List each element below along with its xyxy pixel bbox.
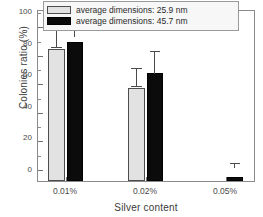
bar-chart-figure: Colonies ratio (%) 0 20 40 60 80 100 — [0, 0, 263, 217]
y-tick-label-100: 100 — [8, 7, 32, 16]
x-tick-label-2: 0.02% — [115, 186, 175, 196]
y-tick-major-20 — [38, 141, 43, 142]
legend-item-25.9nm: average dimensions: 25.9 nm — [47, 5, 235, 15]
chart-legend: average dimensions: 25.9 nm average dime… — [43, 1, 239, 31]
bar-0.02-45.7nm — [147, 73, 163, 181]
y-tick-major-40 — [38, 113, 43, 114]
error-bar-cap-upper-0.05-45.7nm — [230, 163, 240, 164]
y-tick-label-80: 80 — [8, 39, 32, 48]
x-tick-label-1: 0.01% — [35, 186, 95, 196]
y-tick-label-20: 20 — [8, 133, 32, 142]
bar-0.02-25.9nm — [128, 88, 145, 181]
legend-label-25.9nm: average dimensions: 25.9 nm — [76, 6, 188, 15]
bar-0.01-45.7nm — [67, 42, 83, 181]
y-tick-minor-110 — [38, 13, 41, 14]
x-axis-title: Silver content — [37, 202, 255, 213]
error-bar-stem-0.02-45.7nm — [154, 51, 155, 74]
y-tick-minor-50 — [38, 99, 41, 100]
y-tick-major-60 — [38, 84, 43, 85]
plot-inner — [38, 11, 254, 181]
error-bar-cap-upper-0.02-45.7nm — [150, 51, 160, 52]
legend-label-45.7nm: average dimensions: 45.7 nm — [76, 17, 188, 26]
y-tick-label-60: 60 — [8, 70, 32, 79]
legend-swatch-black-icon — [47, 17, 71, 25]
y-tick-major-0 — [38, 170, 43, 171]
bar-0.01-25.9nm — [48, 49, 65, 181]
x-tick-label-3: 0.05% — [195, 186, 255, 196]
legend-item-45.7nm: average dimensions: 45.7 nm — [47, 16, 235, 26]
y-tick-minor-90 — [38, 42, 41, 43]
error-bar-cap-lower-0.01-25.9nm — [51, 47, 62, 48]
error-bar-cap-upper-0.02-25.9nm — [131, 68, 142, 69]
error-bar-stem-0.02-25.9nm — [136, 68, 137, 86]
y-tick-label-40: 40 — [8, 102, 32, 111]
y-tick-label-0: 0 — [8, 165, 32, 174]
y-tick-minor-10 — [38, 156, 41, 157]
error-bar-cap-lower-0.02-25.9nm — [131, 86, 142, 87]
y-tick-minor-30 — [38, 127, 41, 128]
error-bar-stem-0.01-25.9nm — [56, 29, 57, 47]
legend-swatch-gray-icon — [47, 6, 71, 14]
plot-area — [37, 10, 255, 182]
bar-0.05-45.7nm — [227, 177, 243, 181]
y-tick-minor-70 — [38, 70, 41, 71]
y-tick-major-80 — [38, 56, 43, 57]
